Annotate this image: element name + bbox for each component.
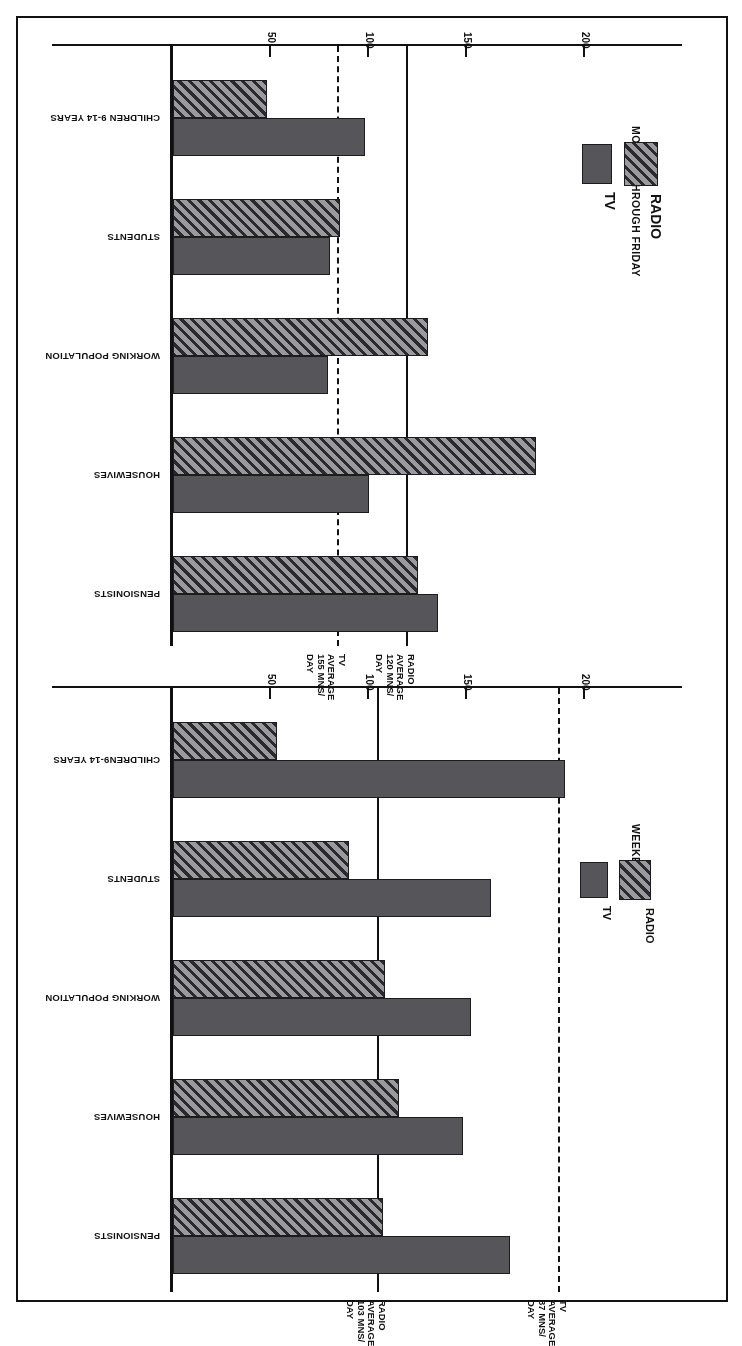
bar-radio-children-weekends bbox=[173, 722, 277, 760]
bar-tv-working-population-weekdays bbox=[173, 356, 328, 394]
category-label-students-weekdays: STUDENTS bbox=[107, 232, 160, 243]
tv-average-label-weekends: TV AVERAGE 87 MNS/ DAY bbox=[526, 1300, 568, 1346]
category-label-children-weekends: CHILDREN9-14 YEARS bbox=[53, 755, 160, 766]
chart-panel-weekdays: MONDAY THROUGH FRIDAY 200 150 100 50 RAD… bbox=[14, 14, 726, 654]
plot-area-weekends: WEEKENDS 200 150 100 50 TV bbox=[14, 660, 726, 1300]
radio-average-line1-weekdays: RADIO bbox=[406, 654, 417, 685]
category-label-housewives-weekdays: HOUSEWIVES bbox=[94, 470, 160, 481]
axis-tick-label-200-weekdays: 200 bbox=[580, 32, 591, 49]
legend-swatch-tv-weekdays bbox=[582, 144, 612, 184]
radio-average-line2: AVERAGE bbox=[367, 1300, 378, 1346]
bar-tv-housewives-weekdays bbox=[173, 475, 369, 513]
bar-tv-children-weekends bbox=[173, 760, 565, 798]
tv-average-line3-weekdays: 155 MNS/ bbox=[316, 654, 327, 696]
category-label-housewives-weekends: HOUSEWIVES bbox=[94, 1112, 160, 1123]
radio-average-line1: RADIO bbox=[377, 1300, 388, 1331]
bar-radio-working-population-weekends bbox=[173, 960, 385, 998]
radio-average-line4-weekdays: DAY bbox=[375, 654, 386, 673]
bar-radio-housewives-weekdays bbox=[173, 437, 536, 475]
figure-border: WEEKENDS 200 150 100 50 TV bbox=[16, 16, 728, 1302]
radio-average-line3: 103 MNS/ bbox=[356, 1300, 367, 1342]
axis-tick-label-50: 50 bbox=[266, 674, 277, 685]
category-label-pensionists-weekdays: PENSIONISTS bbox=[94, 589, 160, 600]
radio-average-line4: DAY bbox=[346, 1300, 357, 1319]
axis-tick-label-200: 200 bbox=[580, 674, 591, 691]
axis-tick-label-150: 150 bbox=[462, 674, 473, 691]
legend-swatch-tv-weekends bbox=[580, 862, 608, 898]
bar-radio-students-weekdays bbox=[173, 199, 340, 237]
bar-tv-pensionists-weekdays bbox=[173, 594, 438, 632]
radio-average-label-weekdays: RADIO AVERAGE 120 MNS/ DAY bbox=[374, 654, 416, 700]
bar-radio-students-weekends bbox=[173, 841, 349, 879]
axis-tick-label-100-weekdays: 100 bbox=[364, 32, 375, 49]
axis-tick-label-150-weekdays: 150 bbox=[462, 32, 473, 49]
radio-average-line2-weekdays: AVERAGE bbox=[396, 654, 407, 700]
bar-tv-pensionists-weekends bbox=[173, 1236, 510, 1274]
legend-label-tv-weekends: TV bbox=[601, 906, 613, 920]
radio-average-line3-weekdays: 120 MNS/ bbox=[385, 654, 396, 696]
tv-average-line1-weekdays: TV bbox=[337, 654, 348, 666]
bar-radio-children-weekdays bbox=[173, 80, 267, 118]
legend-swatch-radio-weekends bbox=[619, 860, 651, 900]
tv-average-label-weekdays: TV AVERAGE 155 MNS/ DAY bbox=[305, 654, 347, 700]
bar-tv-children-weekdays bbox=[173, 118, 365, 156]
bar-tv-students-weekdays bbox=[173, 237, 330, 275]
axis-tick-50-weekdays bbox=[269, 45, 271, 57]
legend-label-radio-weekends: RADIO bbox=[644, 908, 656, 943]
category-label-pensionists-weekends: PENSIONISTS bbox=[94, 1231, 160, 1242]
legend-swatch-radio-weekdays bbox=[624, 142, 658, 186]
legend-label-radio-weekdays: RADIO bbox=[648, 194, 664, 239]
tv-average-line4-weekdays: DAY bbox=[306, 654, 317, 673]
tv-average-line3: 87 MNS/ bbox=[537, 1300, 548, 1337]
bar-tv-students-weekends bbox=[173, 879, 491, 917]
radio-average-label-weekends: RADIO AVERAGE 103 MNS/ DAY bbox=[345, 1300, 387, 1346]
tv-average-line1: TV bbox=[558, 1300, 569, 1312]
category-label-students-weekends: STUDENTS bbox=[107, 874, 160, 885]
bar-tv-housewives-weekends bbox=[173, 1117, 463, 1155]
tv-average-line2-weekdays: AVERAGE bbox=[327, 654, 338, 700]
axis-tick-label-50-weekdays: 50 bbox=[266, 32, 277, 43]
bar-radio-pensionists-weekdays bbox=[173, 556, 418, 594]
bar-tv-working-population-weekends bbox=[173, 998, 471, 1036]
legend-label-tv-weekdays: TV bbox=[602, 192, 618, 210]
category-label-working-population-weekends: WORKING POPULATION bbox=[45, 993, 160, 1004]
tv-average-line4: DAY bbox=[527, 1300, 538, 1319]
plot-area-weekdays: MONDAY THROUGH FRIDAY 200 150 100 50 RAD… bbox=[14, 14, 726, 654]
category-label-children-weekdays: CHILDREN 9-14 YEARS bbox=[50, 113, 160, 124]
axis-tick-50 bbox=[269, 687, 271, 699]
bar-radio-housewives-weekends bbox=[173, 1079, 399, 1117]
category-label-working-population-weekdays: WORKING POPULATION bbox=[45, 351, 160, 362]
chart-panel-weekends: WEEKENDS 200 150 100 50 TV bbox=[14, 660, 726, 1300]
bar-radio-working-population-weekdays bbox=[173, 318, 428, 356]
bar-radio-pensionists-weekends bbox=[173, 1198, 383, 1236]
tv-average-line2: AVERAGE bbox=[548, 1300, 559, 1346]
